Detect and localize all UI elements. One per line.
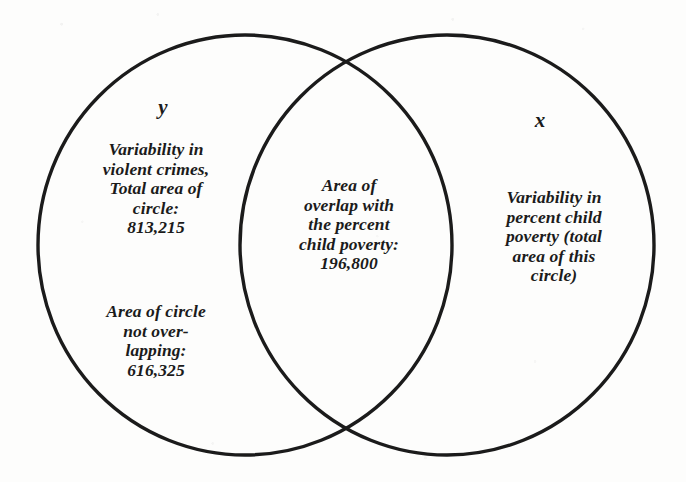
right-set-total-area-text: Variability in percent child poverty (to… bbox=[470, 188, 638, 286]
left-set-total-area-text: Variability in violent crimes, Total are… bbox=[66, 140, 246, 238]
set-label-x: x bbox=[520, 108, 560, 133]
venn-diagram-figure: y Variability in violent crimes, Total a… bbox=[0, 0, 686, 482]
overlap-area-text: Area of overlap with the percent child p… bbox=[283, 176, 415, 274]
set-label-y: y bbox=[143, 95, 183, 120]
left-set-exclusive-area-text: Area of circle not over- lapping: 616,32… bbox=[66, 302, 246, 380]
